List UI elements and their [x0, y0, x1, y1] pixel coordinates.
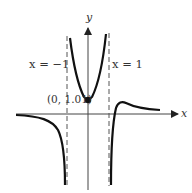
minimum-point-label: (0, 1.01) — [47, 93, 92, 105]
function-graph: y x x = −1 x = 1 (0, 1.01) — [0, 0, 192, 193]
asymptote-right-label: x = 1 — [112, 57, 143, 71]
curve-left-branch — [16, 115, 65, 185]
y-axis-label: y — [85, 11, 93, 24]
x-axis-label: x — [181, 107, 188, 120]
curve-right-branch — [111, 102, 160, 185]
asymptote-left-label: x = −1 — [29, 57, 69, 71]
